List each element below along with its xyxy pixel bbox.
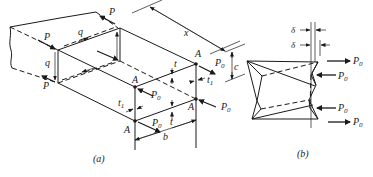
panel-a: P P P q q x A A A A c t t t1 t1 P0 P0 P0… — [10, 0, 245, 165]
label-p0-1: P0 — [214, 57, 225, 70]
caption-b: (b) — [297, 148, 309, 160]
force-arrow-inner — [97, 51, 118, 60]
label-a-4: A — [123, 124, 131, 135]
caption-a: (a) — [93, 153, 105, 165]
label-b: b — [163, 131, 168, 142]
label-t-2: t — [170, 116, 173, 127]
label-p-bottom: P — [42, 80, 49, 91]
diagram-canvas: P P P q q x A A A A c t t t1 t1 P0 P0 P0… — [0, 0, 373, 177]
label-p0-3: P0 — [220, 101, 231, 114]
label-delta-1: δ — [291, 25, 296, 35]
beam-top-edge — [10, 12, 96, 27]
force-arrow-p0-3 — [199, 100, 216, 107]
label-p0-2: P0 — [150, 89, 161, 102]
label-delta-2: δ — [291, 40, 296, 50]
force-arrow-p0-1 — [199, 66, 215, 74]
label-p-top: P — [108, 6, 115, 17]
panel-b: δ δ P0 P0 P0 P0 (b) — [247, 22, 363, 160]
label-b-p0-4: P0 — [352, 116, 363, 129]
label-b-p0-1: P0 — [352, 55, 363, 68]
force-arrow-p-top — [100, 16, 115, 24]
label-a-1: A — [194, 48, 202, 59]
label-b-p0-3: P0 — [337, 102, 348, 115]
deformed-section — [247, 61, 318, 119]
label-a-3: A — [187, 101, 195, 112]
label-t1-2: t1 — [207, 74, 213, 87]
label-t-1: t — [174, 58, 177, 69]
label-q-left: q — [45, 57, 50, 68]
label-b-p0-2: P0 — [337, 70, 348, 83]
label-q-top: q — [78, 26, 83, 37]
label-t1-1: t1 — [118, 97, 124, 110]
label-p-left: P — [43, 31, 50, 42]
cut-edge — [10, 27, 12, 68]
label-a-2: A — [131, 74, 139, 85]
label-c: c — [234, 61, 239, 72]
label-x: x — [183, 27, 189, 38]
